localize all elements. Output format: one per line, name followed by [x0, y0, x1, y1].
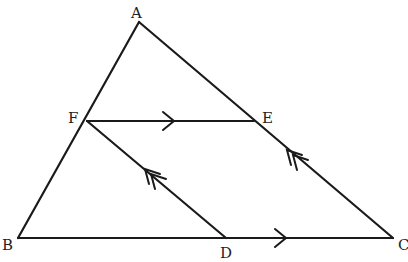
label-F: F: [68, 109, 78, 127]
triangle-diagram: A F E B D C: [0, 0, 408, 262]
segment-AB: [18, 22, 139, 238]
label-E: E: [262, 109, 273, 127]
label-B: B: [2, 236, 13, 254]
segment-FD: [87, 121, 226, 238]
label-A: A: [130, 4, 142, 22]
label-C: C: [398, 236, 408, 254]
label-D: D: [220, 244, 232, 262]
segment-AC: [139, 22, 393, 238]
